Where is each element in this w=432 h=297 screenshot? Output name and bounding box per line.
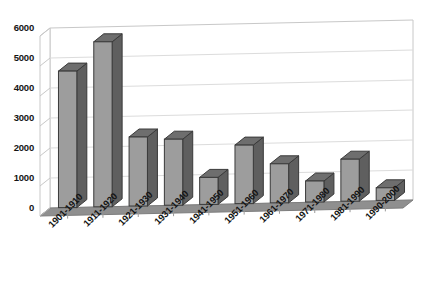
bars-layer bbox=[0, 0, 432, 297]
bar-side-face bbox=[77, 63, 87, 208]
bar-column bbox=[58, 63, 86, 208]
bar-side-face bbox=[112, 34, 122, 207]
bar-front-face bbox=[58, 71, 76, 208]
bar-column bbox=[94, 34, 122, 207]
bar-front-face bbox=[94, 42, 112, 207]
bar-chart: 6000 5000 4000 3000 2000 1000 0 1901-191… bbox=[0, 0, 432, 297]
